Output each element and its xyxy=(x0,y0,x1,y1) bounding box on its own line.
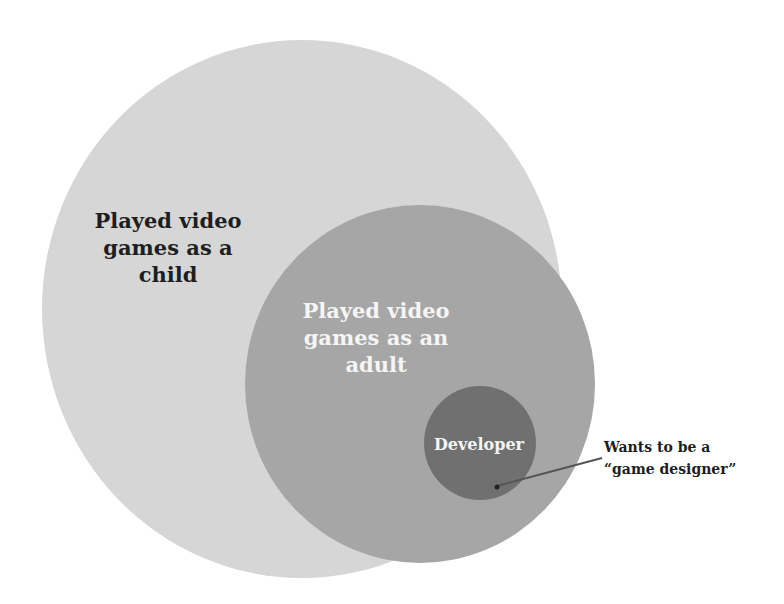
annotation-game-designer: Wants to be a “game designer” xyxy=(603,439,736,477)
annotation-line: Wants to be a xyxy=(603,439,710,455)
label-line: games as an xyxy=(304,325,449,350)
label-line: Played video xyxy=(302,298,449,323)
label-developer: Developer xyxy=(434,435,525,454)
venn-diagram: Played video games as a child Played vid… xyxy=(0,0,784,604)
circle-played-as-adult xyxy=(245,205,595,563)
label-line: adult xyxy=(345,352,407,377)
label-line: Played video xyxy=(94,208,241,233)
label-line: games as a xyxy=(103,235,233,260)
annotation-line: “game designer” xyxy=(604,461,736,477)
leader-dot xyxy=(495,485,500,490)
label-line: child xyxy=(139,262,198,287)
